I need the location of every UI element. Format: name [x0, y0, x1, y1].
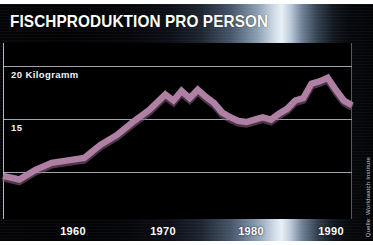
- series-line-main: [3, 78, 352, 180]
- x-axis-strip: 1960 1970 1980 1990: [0, 219, 373, 241]
- figure-root: FISCHPRODUKTION PRO PERSON 20 Kilogramm …: [0, 0, 373, 245]
- title-bar: FISCHPRODUKTION PRO PERSON: [0, 4, 373, 44]
- x-axis-label-1970: 1970: [150, 225, 176, 237]
- x-axis-label-1990: 1990: [318, 225, 344, 237]
- x-axis-label-1980: 1980: [238, 225, 264, 237]
- page-title: FISCHPRODUKTION PRO PERSON: [10, 12, 268, 31]
- bottom-white-margin: [0, 241, 373, 245]
- plot-area: 20 Kilogramm 15: [3, 43, 352, 219]
- chart-panel: FISCHPRODUKTION PRO PERSON 20 Kilogramm …: [0, 4, 373, 241]
- x-axis-label-1960: 1960: [60, 225, 86, 237]
- data-series-line: [3, 43, 352, 219]
- source-credit: Quelle: Worldwatch Institute: [365, 157, 371, 237]
